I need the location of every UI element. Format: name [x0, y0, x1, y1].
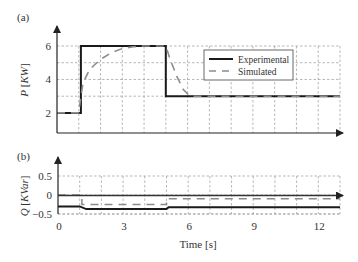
series-simulated: [58, 195, 340, 205]
x-tick-label: 3: [121, 220, 127, 232]
panel-b-series: [58, 195, 340, 209]
panel-b: (b) 0.50−0.5 036912 Q [KVar] Time [s]: [17, 150, 343, 250]
x-tick-label: 6: [186, 220, 192, 232]
panel-b-x-ticks: 036912: [56, 220, 325, 232]
legend-experimental-label: Experimental: [238, 55, 290, 65]
legend: Experimental Simulated: [204, 50, 293, 80]
panel-b-label: (b): [17, 150, 30, 163]
y-tick-label: 4: [46, 73, 52, 85]
y-tick-label: 2: [46, 107, 52, 119]
panel-a-y-ticks: 246: [46, 40, 52, 119]
series-experimental: [58, 206, 340, 209]
legend-simulated-label: Simulated: [238, 67, 277, 77]
panel-b-y-label: Q [KVar]: [18, 176, 30, 217]
y-tick-label: 0.5: [38, 170, 52, 182]
x-axis-label: Time [s]: [179, 238, 216, 250]
x-tick-label: 12: [314, 220, 325, 232]
panel-a-label: (a): [17, 11, 30, 24]
y-tick-label: −0.5: [32, 208, 52, 220]
y-tick-label: 0: [47, 189, 53, 201]
panel-a-y-label: P [KW]: [18, 63, 30, 97]
figure: (a) 246 P [KW] Experimental Simulated (b…: [0, 0, 358, 262]
panel-a-grid: [57, 46, 340, 133]
x-tick-label: 0: [56, 220, 62, 232]
panel-a: (a) 246 P [KW] Experimental Simulated: [17, 11, 343, 133]
y-tick-label: 6: [46, 40, 52, 52]
panel-b-y-ticks: 0.50−0.5: [32, 170, 52, 220]
x-tick-label: 9: [251, 220, 257, 232]
